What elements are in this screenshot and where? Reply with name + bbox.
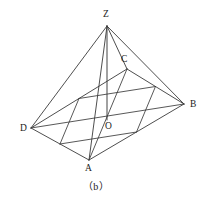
vertex-label-C: C	[121, 55, 128, 65]
figure-caption: （b）	[83, 182, 109, 192]
vertex-label-O: O	[105, 122, 112, 132]
vertex-label-A: A	[85, 164, 92, 174]
base-diagonals	[31, 69, 184, 160]
geometry-figure: Z C B A D O （b）	[0, 0, 207, 208]
lateral-edges	[31, 26, 184, 160]
vertex-label-D: D	[20, 124, 27, 134]
inner-edge-top-left	[79, 87, 156, 99]
figure-canvas	[0, 0, 207, 208]
vertex-label-B: B	[190, 100, 197, 110]
inner-edge-bottom-right	[60, 132, 137, 144]
vertex-label-Z: Z	[103, 10, 109, 20]
base-parallelogram	[31, 69, 184, 160]
